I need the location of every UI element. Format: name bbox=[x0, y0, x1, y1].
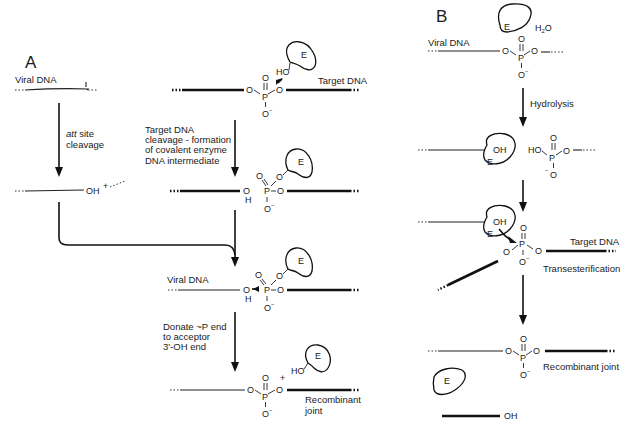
svg-text:P: P bbox=[518, 53, 524, 63]
svg-text:O: O bbox=[531, 46, 538, 56]
svg-text:O: O bbox=[520, 370, 527, 380]
svg-text:E: E bbox=[298, 256, 304, 266]
svg-text:P: P bbox=[262, 92, 268, 102]
integration-mechanism-diagram: A Viral DNA att site cleavage OH + O P O… bbox=[0, 0, 630, 432]
svg-text:O: O bbox=[256, 171, 263, 181]
svg-text:O: O bbox=[276, 385, 283, 395]
svg-text:O: O bbox=[264, 204, 271, 214]
svg-text:−: − bbox=[269, 107, 273, 113]
svg-text:OH: OH bbox=[504, 411, 518, 421]
svg-text:−: − bbox=[527, 368, 531, 374]
svg-text:O: O bbox=[518, 34, 525, 44]
svg-text:cleavage: cleavage bbox=[66, 139, 104, 150]
svg-text:O: O bbox=[262, 109, 269, 119]
svg-text:O: O bbox=[535, 246, 542, 256]
svg-text:E: E bbox=[301, 50, 307, 60]
svg-text:O: O bbox=[255, 270, 262, 280]
svg-text:E: E bbox=[444, 376, 450, 386]
svg-text:3'-OH end: 3'-OH end bbox=[163, 341, 206, 352]
svg-text:O: O bbox=[502, 46, 509, 56]
viral-dna-strand bbox=[25, 89, 88, 90]
svg-text:−: − bbox=[269, 407, 273, 413]
svg-text:O: O bbox=[276, 85, 283, 95]
svg-text:E: E bbox=[487, 229, 493, 239]
svg-text:O: O bbox=[247, 385, 254, 395]
svg-text:Viral DNA: Viral DNA bbox=[167, 274, 209, 285]
svg-text:E: E bbox=[315, 351, 321, 361]
svg-text:−: − bbox=[525, 68, 529, 74]
svg-text:O: O bbox=[550, 133, 557, 143]
svg-text:O: O bbox=[276, 271, 283, 281]
svg-text:HO: HO bbox=[291, 366, 305, 376]
svg-text:Recombinant: Recombinant bbox=[305, 394, 361, 405]
svg-text:O: O bbox=[246, 85, 253, 95]
svg-text:O: O bbox=[533, 346, 540, 356]
connector-line bbox=[59, 202, 235, 255]
svg-text:O: O bbox=[518, 70, 525, 80]
svg-text:−: − bbox=[526, 255, 530, 261]
svg-text:E: E bbox=[298, 157, 304, 167]
svg-text:O: O bbox=[262, 73, 269, 83]
svg-text:H: H bbox=[245, 195, 252, 205]
svg-text:−: − bbox=[545, 167, 549, 173]
svg-text:OH: OH bbox=[493, 145, 507, 155]
svg-text:P: P bbox=[520, 353, 526, 363]
svg-text:P: P bbox=[262, 392, 268, 402]
svg-text:Recombinant joint: Recombinant joint bbox=[543, 361, 619, 372]
svg-text:+: + bbox=[103, 181, 108, 191]
svg-text:Hydrolysis: Hydrolysis bbox=[530, 98, 574, 109]
svg-text:Target DNA: Target DNA bbox=[318, 75, 368, 86]
svg-text:O: O bbox=[550, 170, 557, 180]
svg-text:Target DNA: Target DNA bbox=[570, 236, 620, 247]
svg-text:O: O bbox=[264, 303, 271, 313]
svg-text:P: P bbox=[264, 186, 270, 196]
panel-b-label: B bbox=[436, 7, 447, 26]
svg-text:P: P bbox=[264, 285, 270, 295]
svg-text:OH: OH bbox=[86, 186, 100, 196]
svg-text:O: O bbox=[503, 247, 510, 257]
svg-text:H2O: H2O bbox=[535, 23, 552, 34]
svg-text:O: O bbox=[520, 223, 527, 233]
svg-text:O: O bbox=[563, 146, 570, 156]
svg-text:HO: HO bbox=[276, 67, 290, 77]
svg-text:joint: joint bbox=[304, 405, 323, 416]
svg-text:of covalent enzyme: of covalent enzyme bbox=[145, 144, 227, 155]
svg-text:E: E bbox=[487, 157, 493, 167]
viral-dna-label: Viral DNA bbox=[15, 74, 57, 85]
svg-text:OH: OH bbox=[493, 217, 507, 227]
svg-text:P: P bbox=[519, 239, 525, 249]
svg-text:P: P bbox=[549, 153, 555, 163]
svg-text:Transesterification: Transesterification bbox=[543, 263, 620, 274]
svg-text:HO: HO bbox=[528, 145, 542, 155]
svg-text:O: O bbox=[519, 257, 526, 267]
svg-text:O: O bbox=[520, 334, 527, 344]
svg-text:O: O bbox=[505, 346, 512, 356]
svg-text:−: − bbox=[271, 202, 275, 208]
svg-text:O: O bbox=[277, 186, 284, 196]
svg-text:O: O bbox=[276, 172, 283, 182]
panel-a-label: A bbox=[25, 53, 37, 72]
svg-text:DNA intermediate: DNA intermediate bbox=[145, 155, 219, 166]
svg-text:O: O bbox=[262, 409, 269, 419]
svg-text:+: + bbox=[280, 373, 285, 383]
svg-text:O: O bbox=[277, 285, 284, 295]
svg-text:O: O bbox=[262, 373, 269, 383]
svg-text:−: − bbox=[271, 301, 275, 307]
svg-text:Viral DNA: Viral DNA bbox=[428, 37, 470, 48]
svg-text:E: E bbox=[504, 22, 510, 32]
svg-text:H: H bbox=[245, 294, 252, 304]
att-site-cleavage-label: att site bbox=[66, 128, 94, 139]
